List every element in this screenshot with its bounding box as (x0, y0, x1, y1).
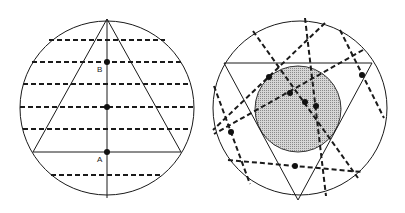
chord-midpoint-dot (313, 103, 319, 109)
point-a-label: A (97, 155, 103, 164)
diagram-canvas: B A (0, 0, 405, 213)
point-a-dot (104, 149, 110, 155)
point-b-dot (104, 59, 110, 65)
chord-midpoint-dot (266, 74, 272, 80)
chord-midpoint-dot (292, 163, 298, 169)
right-figure (213, 18, 387, 200)
chord-midpoint-dot (359, 72, 365, 78)
chord-midpoint-dot (287, 90, 293, 96)
left-figure: B A (20, 19, 194, 198)
chord-midpoint-dot (302, 99, 308, 105)
geometry-figures: B A (0, 0, 405, 213)
point-b-label: B (97, 65, 102, 74)
point-mid-dot (104, 104, 110, 110)
chord-midpoint-dot (228, 129, 234, 135)
